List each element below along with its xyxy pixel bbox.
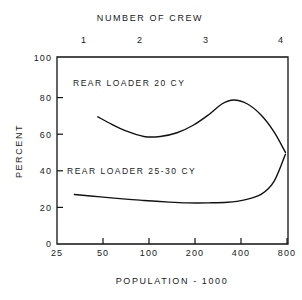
- y-tick-label: 60: [40, 130, 52, 140]
- x-tick-label: 25: [51, 248, 63, 258]
- y-tick-label: 100: [34, 53, 52, 63]
- series-label-rear-loader-20-cy: REAR LOADER 20 CY: [73, 78, 185, 88]
- x-axis-ticks: [103, 238, 287, 244]
- y-axis-title: PERCENT: [14, 124, 24, 178]
- x-tick-label: 50: [97, 248, 109, 258]
- top-tick-label: 2: [137, 35, 143, 45]
- top-tick-label: 3: [203, 35, 209, 45]
- x-tick-label: 200: [186, 248, 204, 258]
- y-tick-label: 80: [40, 93, 52, 103]
- x-tick-label: 100: [140, 248, 158, 258]
- series-curve-rear-loader-25-30-cy: [74, 154, 285, 203]
- x-tick-label: 400: [232, 248, 250, 258]
- x-axis-tick-labels: 25 50 100 200 400 800: [51, 248, 296, 258]
- top-axis-title: NUMBER OF CREW: [97, 13, 203, 23]
- chart-figure: NUMBER OF CREW 1 2 3 4 100 80 60 40 20 0…: [0, 0, 302, 300]
- y-axis-tick-labels: 100 80 60 40 20 0: [34, 53, 52, 250]
- series-label-rear-loader-25-30-cy: REAR LOADER 25-30 CY: [67, 166, 196, 176]
- series-curve-rear-loader-20-cy: [98, 100, 286, 152]
- x-axis-title: POPULATION - 1000: [116, 276, 229, 286]
- top-tick-label: 4: [278, 35, 284, 45]
- top-axis-tick-labels: 1 2 3 4: [81, 35, 284, 45]
- chart-canvas: NUMBER OF CREW 1 2 3 4 100 80 60 40 20 0…: [0, 0, 302, 300]
- y-axis-ticks: [57, 98, 63, 208]
- y-tick-label: 20: [40, 203, 52, 213]
- y-tick-label: 40: [40, 166, 52, 176]
- x-tick-label: 800: [278, 248, 296, 258]
- top-tick-label: 1: [81, 35, 87, 45]
